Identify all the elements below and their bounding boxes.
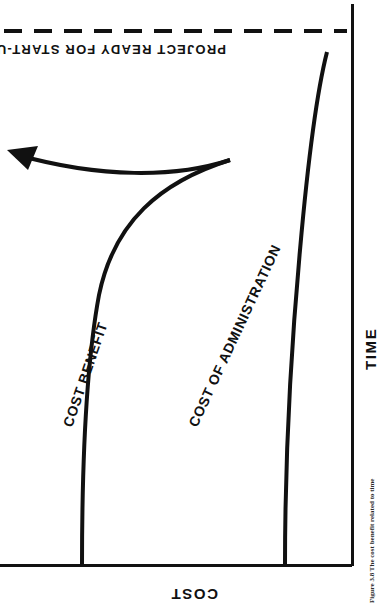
figure-caption-group: Figure 3.8 The cost benefit related to t… xyxy=(368,479,376,603)
cost-benefit-curve xyxy=(82,160,230,565)
cost-of-administration-label: COST OF ADMINISTRATION xyxy=(185,242,284,429)
chart-canvas: PROJECT READY FOR START-UP COST TIME COS… xyxy=(0,0,379,607)
cost-axis-label-group: COST xyxy=(170,586,218,603)
cost-of-administration-curve xyxy=(285,52,327,565)
time-axis-label-group: TIME xyxy=(362,328,379,370)
figure-caption: Figure 3.8 The cost benefit related to t… xyxy=(368,479,376,603)
project-ready-label: PROJECT READY FOR START-UP xyxy=(0,42,226,57)
cost-axis-label: COST xyxy=(170,586,218,603)
time-axis-label: TIME xyxy=(362,328,379,370)
project-ready-label-group: PROJECT READY FOR START-UP xyxy=(0,42,226,57)
cost-of-administration-label-group: COST OF ADMINISTRATION xyxy=(185,242,284,429)
figure-page: PROJECT READY FOR START-UP COST TIME COS… xyxy=(0,0,379,607)
